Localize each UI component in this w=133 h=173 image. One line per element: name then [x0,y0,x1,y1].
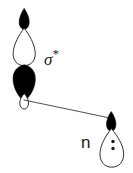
donation-line [24,100,110,118]
orbital-diagram-figure: σ* n [0,0,133,173]
sigma-star-orbital [13,8,35,109]
lone-pair-label: n [81,134,90,151]
electron-dot-lower [111,147,114,150]
sigma-star-upper-large-white-lobe [13,28,35,65]
asterisk-glyph: * [52,46,59,61]
lone-pair-orbital [100,112,124,168]
sigma-star-label: σ* [44,47,59,68]
sigma-star-top-small-black-lobe [19,8,29,29]
electron-dot-upper [111,140,114,143]
orbital-diagram-canvas [0,0,133,173]
